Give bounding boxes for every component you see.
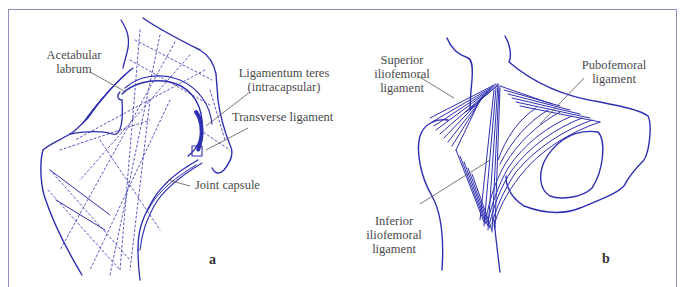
label-superior-iliofemoral: Superior iliofemoral ligament	[370, 53, 434, 95]
label-line: ligament	[362, 242, 426, 256]
label-line: (intracapsular)	[228, 80, 340, 94]
label-line: iliofemoral	[370, 67, 434, 81]
label-line: Pubofemoral	[574, 58, 654, 72]
label-line: Superior	[370, 53, 434, 67]
label-joint-capsule: Joint capsule	[195, 178, 260, 192]
label-line: iliofemoral	[362, 228, 426, 242]
panel-a-leaders	[90, 72, 250, 186]
ilium-left-contour	[447, 38, 472, 110]
panel-b-leaders	[418, 76, 584, 204]
label-line: Ligamentum teres	[228, 66, 340, 80]
label-ligamentum-teres: Ligamentum teres (intracapsular)	[228, 66, 340, 94]
label-line: Inferior	[362, 214, 426, 228]
label-transverse-ligament: Transverse ligament	[232, 110, 333, 124]
leader-inferior-iliofemoral	[420, 160, 490, 204]
joint-capsule	[138, 160, 198, 250]
label-inferior-iliofemoral: Inferior iliofemoral ligament	[362, 214, 426, 256]
ilium-outline	[121, 20, 129, 68]
ilium-outline-right	[143, 18, 232, 173]
label-acetabular-labrum: Acetabular labrum	[36, 48, 112, 76]
solid-trabecular-lines	[50, 170, 110, 230]
label-line: Acetabular	[36, 48, 112, 62]
panel-letter-b: b	[602, 251, 610, 267]
labrum-band	[70, 68, 133, 134]
label-line: ligament	[370, 81, 434, 95]
label-pubofemoral: Pubofemoral ligament	[574, 58, 654, 86]
femoral-head	[122, 81, 202, 156]
label-line: ligament	[574, 72, 654, 86]
panel-letter-a: a	[209, 252, 216, 268]
label-line: labrum	[36, 62, 112, 76]
leader-transverse-ligament	[206, 128, 248, 150]
